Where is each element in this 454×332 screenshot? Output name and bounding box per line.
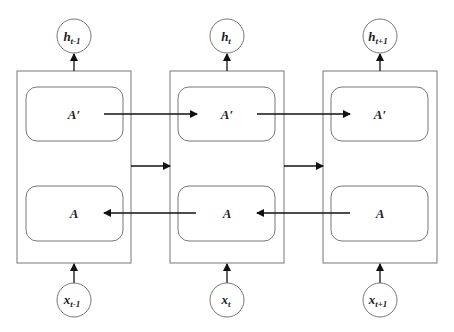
backward-label-t: A (222, 206, 232, 221)
forward-label-t+1: A′ (373, 107, 387, 122)
backward-label-t-1: A (69, 206, 79, 221)
forward-label-t: A′ (220, 107, 234, 122)
birnn-diagram: A′ A′ A′ A A A ht-1 ht ht+1 xt-1 xt xt+1 (0, 0, 454, 332)
backward-label-t+1: A (375, 206, 385, 221)
forward-label-t-1: A′ (67, 107, 81, 122)
